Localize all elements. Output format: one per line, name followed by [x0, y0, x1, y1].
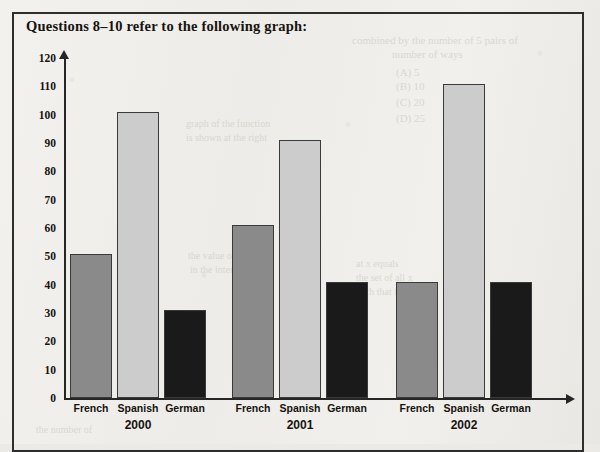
bar-label-french: French [73, 402, 108, 414]
bar-label-spanish: Spanish [118, 402, 159, 414]
bar-2001-french [232, 225, 274, 398]
bar-2001-spanish [279, 140, 321, 398]
bar-label-french: French [399, 402, 434, 414]
bar-label-german: German [165, 402, 205, 414]
bar-2002-german [490, 282, 532, 398]
bar-2000-french [70, 254, 112, 399]
bar-2000-spanish [117, 112, 159, 398]
bar-label-german: German [327, 402, 367, 414]
bar-label-german: German [491, 402, 531, 414]
year-label-2002: 2002 [451, 418, 478, 432]
bar-2001-german [326, 282, 368, 398]
year-label-2000: 2000 [125, 418, 152, 432]
year-label-2001: 2001 [287, 418, 314, 432]
bars-layer [0, 0, 600, 398]
bar-label-french: French [235, 402, 270, 414]
bar-2002-spanish [443, 84, 485, 399]
bar-label-spanish: Spanish [444, 402, 485, 414]
x-axis-line [64, 398, 572, 400]
bar-label-spanish: Spanish [280, 402, 321, 414]
bar-2002-french [396, 282, 438, 398]
bar-2000-german [164, 310, 206, 398]
